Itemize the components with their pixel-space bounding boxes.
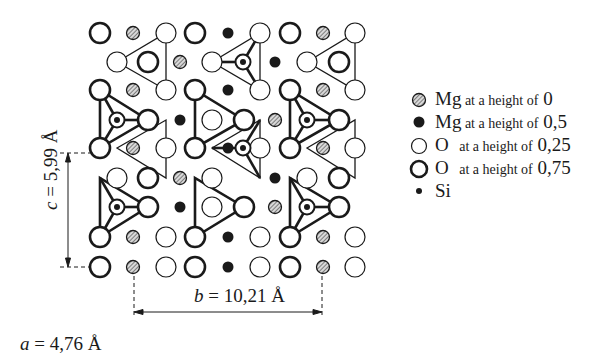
- dim-var: c: [40, 202, 61, 210]
- legend-value: 0: [543, 88, 553, 109]
- legend-text: at a height of: [465, 93, 538, 108]
- legend-thin-o-symbol: [412, 139, 427, 154]
- legend-value: 0,5: [543, 111, 567, 132]
- legend-item-mg0: Mg at a height of 0: [435, 88, 553, 110]
- legend-element: O: [435, 134, 449, 155]
- dim-var: a: [20, 333, 30, 354]
- legend-value: 0,75: [537, 157, 570, 178]
- crystal-structure-diagram: [0, 0, 605, 359]
- legend-element: Mg: [435, 88, 461, 109]
- dimension-c-label: c = 5,99 Å: [40, 130, 62, 210]
- legend-text: at a height of: [465, 116, 538, 131]
- legend-element: Mg: [435, 111, 461, 132]
- legend-mg5-symbol: [414, 117, 425, 128]
- dim-value: = 10,21 Å: [204, 285, 285, 306]
- dim-value: = 5,99 Å: [40, 130, 61, 202]
- dim-value: = 4,76 Å: [30, 333, 102, 354]
- dim-var: b: [194, 285, 204, 306]
- legend-text: at a height of: [459, 139, 532, 154]
- legend-mg0-symbol: [413, 94, 426, 107]
- legend-symbols: [411, 94, 427, 195]
- legend-value: 0,25: [537, 134, 570, 155]
- dimension-c: [60, 153, 90, 267]
- legend-item-mg5: Mg at a height of 0,5: [435, 111, 567, 133]
- legend-si-symbol: [416, 188, 422, 194]
- legend-text: at a height of: [459, 162, 532, 177]
- legend-item-o025: O at a height of 0,25: [435, 134, 571, 156]
- legend-item-o075: O at a height of 0,75: [435, 157, 571, 179]
- legend-thick-o-symbol: [411, 161, 427, 177]
- legend-element: Si: [435, 180, 451, 201]
- legend-item-si: Si: [435, 180, 451, 202]
- legend-element: O: [435, 157, 449, 178]
- dimension-b-label: b = 10,21 Å: [194, 285, 285, 307]
- dimension-a-label: a = 4,76 Å: [20, 333, 101, 355]
